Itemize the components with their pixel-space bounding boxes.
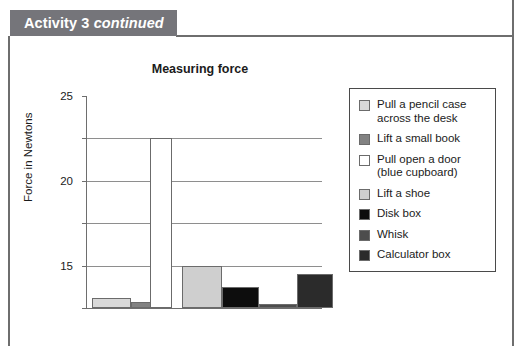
legend-label-4: Lift a shoe xyxy=(377,187,430,201)
legend-swatch-icon-5 xyxy=(359,209,370,220)
legend-label-2: Lift a small book xyxy=(377,132,460,146)
y-axis-line xyxy=(86,96,87,309)
header-rule xyxy=(176,35,514,37)
chart-title: Measuring force xyxy=(60,62,340,76)
chart-legend: Pull a pencil case across the deskLift a… xyxy=(349,88,496,272)
legend-item-4: Lift a shoe xyxy=(359,187,487,201)
legend-label-3: Pull open a door (blue cupboard) xyxy=(377,153,487,180)
legend-swatch-icon-6 xyxy=(359,230,370,241)
y-tick-20: 20 xyxy=(82,138,87,139)
activity-banner-suffix: continued xyxy=(94,15,164,31)
legend-label-7: Calculator box xyxy=(377,248,451,262)
y-tick-5: 5 xyxy=(82,266,87,267)
legend-item-2: Lift a small book xyxy=(359,132,487,146)
activity-banner: Activity 3 continued xyxy=(10,10,177,36)
gridline-20 xyxy=(87,138,322,139)
gridline-15 xyxy=(87,181,322,182)
y-tick-25: 25 xyxy=(82,96,87,97)
legend-item-3: Pull open a door (blue cupboard) xyxy=(359,153,487,180)
y-tick-label-15: 15 xyxy=(60,260,73,272)
bar-4 xyxy=(182,266,222,308)
legend-label-1: Pull a pencil case across the desk xyxy=(377,98,487,125)
bar-7 xyxy=(297,274,333,308)
y-tick-0: 0 xyxy=(82,308,87,309)
legend-item-6: Whisk xyxy=(359,228,487,242)
legend-item-1: Pull a pencil case across the desk xyxy=(359,98,487,125)
bar-6 xyxy=(259,304,297,308)
activity-banner-prefix: Activity 3 xyxy=(24,15,89,31)
legend-item-7: Calculator box xyxy=(359,248,487,262)
y-tick-10: 10 xyxy=(82,223,87,224)
legend-label-6: Whisk xyxy=(377,228,408,242)
y-tick-label-20: 20 xyxy=(60,175,73,187)
figure-measuring-force: Measuring force Force in Newtons 0510152… xyxy=(0,40,514,346)
bar-5 xyxy=(222,287,259,308)
legend-swatch-icon-3 xyxy=(359,155,370,166)
bar-1 xyxy=(92,298,131,308)
bar-3 xyxy=(150,138,172,308)
legend-swatch-icon-1 xyxy=(359,100,370,111)
legend-swatch-icon-4 xyxy=(359,189,370,200)
y-tick-15: 15 xyxy=(82,181,87,182)
y-tick-label-25: 25 xyxy=(60,90,73,102)
gridline-10 xyxy=(87,223,322,224)
y-axis-title: Force in Newtons xyxy=(22,113,34,202)
chart-plot-area: 0510152025 xyxy=(87,96,322,308)
legend-swatch-icon-7 xyxy=(359,250,370,261)
page-canvas: Activity 3 continued Measuring force For… xyxy=(0,0,514,346)
legend-swatch-icon-2 xyxy=(359,134,370,145)
legend-label-5: Disk box xyxy=(377,207,421,221)
gridline-0 xyxy=(87,308,322,309)
legend-item-5: Disk box xyxy=(359,207,487,221)
